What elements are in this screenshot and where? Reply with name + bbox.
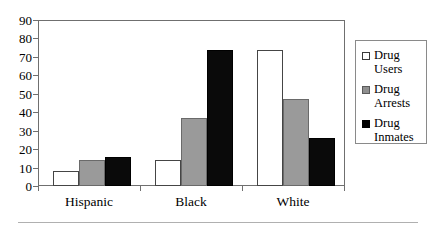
- x-tick-mark: [140, 186, 141, 191]
- x-tick-mark: [242, 186, 243, 191]
- gray-square-icon: [362, 86, 370, 94]
- chart-legend: Drug Users Drug Arrests Drug Inmates: [355, 40, 427, 144]
- legend-label-drug-arrests: Drug Arrests: [374, 82, 410, 110]
- white-square-icon: [362, 52, 370, 60]
- y-tick-label: 20: [19, 143, 32, 156]
- x-tick-mark: [38, 186, 39, 191]
- y-tick-label: 70: [19, 50, 32, 63]
- y-tick-label: 60: [19, 69, 32, 82]
- x-axis: Hispanic Black White: [38, 194, 345, 214]
- x-tick-mark: [344, 186, 345, 191]
- y-tick-label: 0: [26, 180, 33, 193]
- bar-black-drug-users: [155, 160, 181, 186]
- legend-label-drug-users: Drug Users: [374, 48, 402, 76]
- bar-chart-figure: 90 80 70 60 50 40 30 20 10 0: [0, 0, 436, 230]
- legend-label-drug-inmates: Drug Inmates: [374, 116, 414, 144]
- y-tick-label: 10: [19, 161, 32, 174]
- bar-white-drug-inmates: [309, 138, 335, 186]
- y-tick-label: 30: [19, 124, 32, 137]
- bar-white-drug-users: [257, 50, 283, 186]
- x-axis-ticks: [38, 186, 345, 192]
- legend-item-drug-users: Drug Users: [362, 48, 426, 76]
- bar-hispanic-drug-inmates: [105, 157, 131, 187]
- bar-black-drug-inmates: [207, 50, 233, 186]
- y-tick-label: 50: [19, 87, 32, 100]
- bars-layer: [38, 20, 345, 186]
- bar-black-drug-arrests: [181, 118, 207, 186]
- y-axis: 90 80 70 60 50 40 30 20 10 0: [0, 20, 32, 186]
- black-square-icon: [362, 120, 370, 128]
- bar-hispanic-drug-arrests: [79, 160, 105, 186]
- x-category-label-black: Black: [175, 194, 207, 210]
- y-tick-label: 40: [19, 106, 32, 119]
- y-tick-label: 80: [19, 32, 32, 45]
- x-category-label-white: White: [277, 194, 310, 210]
- legend-item-drug-inmates: Drug Inmates: [362, 116, 426, 144]
- legend-item-drug-arrests: Drug Arrests: [362, 82, 426, 110]
- bar-white-drug-arrests: [283, 99, 309, 186]
- x-category-label-hispanic: Hispanic: [65, 194, 113, 210]
- footer-divider: [18, 222, 418, 223]
- bar-hispanic-drug-users: [53, 171, 79, 186]
- y-tick-label: 90: [19, 14, 32, 27]
